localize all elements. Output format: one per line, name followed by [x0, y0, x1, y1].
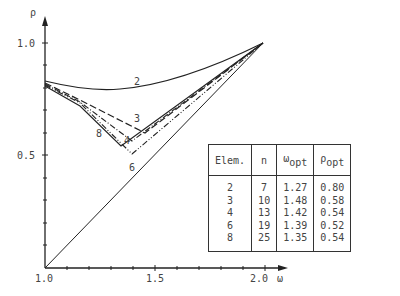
- cell-n: 25: [252, 232, 277, 251]
- table-header-row: Elem. n ωopt ρopt: [209, 145, 351, 176]
- cell-elem: 4: [209, 207, 252, 220]
- cell-omega: 1.27: [277, 176, 314, 195]
- x-axis-label: ω: [277, 273, 283, 284]
- curve-label-6: 6: [129, 162, 135, 173]
- table-row: 6 19 1.39 0.52: [209, 220, 351, 233]
- cell-n: 19: [252, 220, 277, 233]
- y-axis-label: ρ: [30, 7, 36, 18]
- y-axis-arrow-icon: [42, 16, 48, 26]
- header-n: n: [252, 145, 277, 176]
- cell-n: 13: [252, 207, 277, 220]
- header-omega-opt: ωopt: [277, 145, 314, 176]
- cell-omega: 1.42: [277, 207, 314, 220]
- curve-label-4: 4: [124, 135, 130, 146]
- table-row: 3 10 1.48 0.58: [209, 195, 351, 208]
- cell-n: 10: [252, 195, 277, 208]
- cell-rho: 0.54: [314, 232, 351, 251]
- x-axis-arrow-icon: [278, 265, 288, 271]
- cell-rho: 0.54: [314, 207, 351, 220]
- x-tick-label-2.0: 2.0: [250, 273, 268, 284]
- rho-subscript: opt: [326, 157, 344, 168]
- table-row: 4 13 1.42 0.54: [209, 207, 351, 220]
- cell-elem: 6: [209, 220, 252, 233]
- cell-rho: 0.58: [314, 195, 351, 208]
- cell-omega: 1.48: [277, 195, 314, 208]
- x-tick-label-1.0: 1.0: [35, 273, 53, 284]
- curve-label-8: 8: [96, 128, 102, 139]
- table-row: 2 7 1.27 0.80: [209, 176, 351, 195]
- header-rho-opt: ρopt: [314, 145, 351, 176]
- cell-omega: 1.39: [277, 220, 314, 233]
- y-tick-label-1.0: 1.0: [17, 38, 35, 49]
- cell-n: 7: [252, 176, 277, 195]
- cell-elem: 3: [209, 195, 252, 208]
- cell-omega: 1.35: [277, 232, 314, 251]
- table-row: 8 25 1.35 0.54: [209, 232, 351, 251]
- y-tick-label-0.5: 0.5: [17, 150, 35, 161]
- omega-subscript: opt: [289, 157, 307, 168]
- cell-rho: 0.80: [314, 176, 351, 195]
- cell-rho: 0.52: [314, 220, 351, 233]
- optimum-table: Elem. n ωopt ρopt 2 7 1.27 0.80 3 10 1.4…: [208, 144, 351, 252]
- curve-label-3: 3: [134, 113, 140, 124]
- cell-elem: 2: [209, 176, 252, 195]
- header-elem: Elem.: [209, 145, 252, 176]
- curve-label-2: 2: [134, 76, 140, 87]
- cell-elem: 8: [209, 232, 252, 251]
- x-tick-label-1.5: 1.5: [146, 273, 164, 284]
